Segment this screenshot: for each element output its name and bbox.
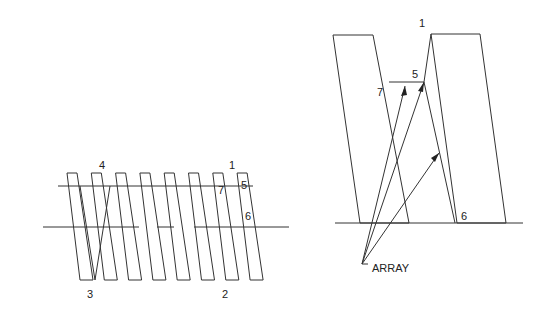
point-label: 1 xyxy=(419,17,425,29)
point-label: 5 xyxy=(412,68,418,80)
flank-line-5-6 xyxy=(424,82,455,223)
flank-edge xyxy=(424,34,431,82)
drawing-canvas: 41756321576ARRAY xyxy=(0,0,549,325)
array-arrow-5 xyxy=(362,82,424,264)
left-figure-thread-teeth xyxy=(43,173,289,280)
point-label: 4 xyxy=(99,159,105,171)
right-figure-detail xyxy=(333,34,523,264)
point-label: 6 xyxy=(461,210,467,222)
array-arrow-7 xyxy=(362,86,405,264)
point-label: 2 xyxy=(222,288,228,300)
point-label: ARRAY xyxy=(372,262,410,274)
arrowhead-icon xyxy=(401,86,407,96)
arrowhead-icon xyxy=(431,153,439,162)
point-label: 7 xyxy=(377,86,383,98)
arrowhead-icon xyxy=(418,82,424,92)
point-label: 7 xyxy=(218,184,224,196)
point-label: 3 xyxy=(87,288,93,300)
right-tooth-block xyxy=(431,34,506,223)
point-label: 1 xyxy=(229,159,235,171)
cad-drawing: 41756321576ARRAY xyxy=(0,0,549,325)
point-label: 5 xyxy=(241,179,247,191)
left-tooth-block xyxy=(333,35,409,223)
array-arrow-6 xyxy=(362,153,439,264)
point-label: 6 xyxy=(245,210,251,222)
